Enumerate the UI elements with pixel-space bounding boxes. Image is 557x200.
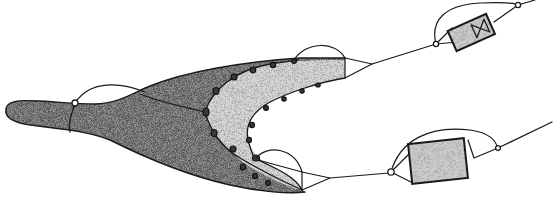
open-node xyxy=(388,169,394,175)
open-node xyxy=(515,2,520,7)
lower-module xyxy=(388,122,552,184)
diagram-figure xyxy=(0,0,557,200)
open-node xyxy=(433,41,438,46)
open-node xyxy=(72,100,78,106)
upper-module xyxy=(433,0,535,51)
open-node xyxy=(496,146,501,151)
